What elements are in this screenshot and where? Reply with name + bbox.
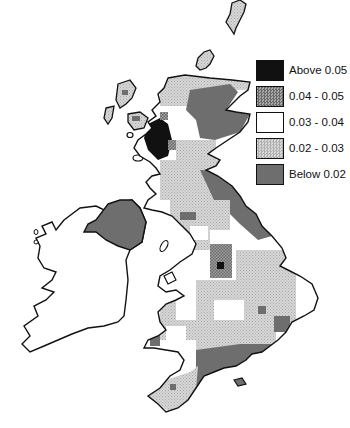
legend-swatch xyxy=(256,112,284,133)
legend-item-above-005: Above 0.05 xyxy=(256,60,350,84)
legend-item-002-003: 0.02 - 0.03 xyxy=(256,138,350,162)
legend-label: 0.03 - 0.04 xyxy=(289,116,344,128)
isle-of-wight xyxy=(234,378,246,386)
legend-item-below-002: Below 0.02 xyxy=(256,164,350,188)
shetland-islands xyxy=(226,0,246,34)
legend-label: 0.04 - 0.05 xyxy=(289,90,344,102)
orkney-islands xyxy=(196,50,214,70)
legend-swatch xyxy=(256,138,284,159)
legend-label: Above 0.05 xyxy=(289,64,347,76)
ireland xyxy=(22,200,146,352)
legend-swatch xyxy=(256,86,284,107)
legend-swatch xyxy=(256,60,284,81)
isle-of-man xyxy=(158,239,169,252)
legend-item-004-005: 0.04 - 0.05 xyxy=(256,86,350,110)
legend-item-003-004: 0.03 - 0.04 xyxy=(256,112,350,136)
legend-label: Below 0.02 xyxy=(289,168,346,180)
legend-label: 0.02 - 0.03 xyxy=(289,142,344,154)
legend-swatch xyxy=(256,164,284,185)
